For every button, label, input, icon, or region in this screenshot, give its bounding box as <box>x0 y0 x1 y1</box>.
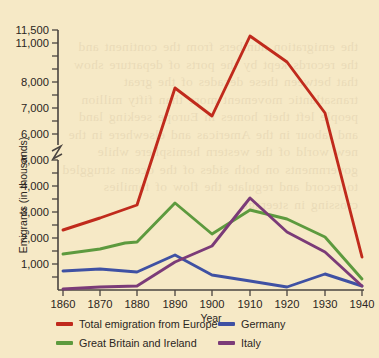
x-tick-label-1890: 1890 <box>163 298 188 310</box>
y-axis-break-icon <box>52 146 62 159</box>
y-axis-title: Emigrants (in thousands) <box>17 137 29 254</box>
legend-label-italy: Italy <box>241 337 261 349</box>
legend-label-germany: Germany <box>241 318 285 330</box>
legend-label-gb: Great Britain and Ireland <box>79 337 197 349</box>
legend-swatch-icon-germany <box>218 322 235 325</box>
legend-swatch-icon-italy <box>218 341 235 344</box>
y-tick-label-11000: 11,000 <box>16 37 49 49</box>
legend-item-great-britain-and-ireland: Great Britain and Ireland <box>56 337 197 349</box>
series-line-total-emigration-from-europe <box>63 36 362 257</box>
line-chart: 1,000 2,000 3,000 4,000 5,000 6,000 7,00… <box>0 0 379 358</box>
legend-swatch-icon-total <box>56 322 73 325</box>
legend-item-germany: Germany <box>218 318 285 330</box>
y-tick-label-7000: 7,000 <box>21 102 49 114</box>
x-tick-label-1940: 1940 <box>350 298 375 310</box>
x-tick-label-1900: 1900 <box>200 298 225 310</box>
x-tick-label-1910: 1910 <box>238 298 263 310</box>
x-tick-label-1870: 1870 <box>88 298 113 310</box>
y-tick-label-1000: 1,000 <box>21 258 49 270</box>
legend-item-total-emigration-from-europe: Total emigration from Europe <box>56 318 218 330</box>
chart-legend: Total emigration from Europe Germany Gre… <box>0 313 379 358</box>
series-line-germany <box>63 255 362 287</box>
x-tick-label-1860: 1860 <box>51 298 76 310</box>
y-tick-label-11500: 11,500 <box>16 24 49 36</box>
legend-label-total: Total emigration from Europe <box>79 318 218 330</box>
legend-swatch-icon-gb <box>56 341 73 344</box>
legend-item-italy: Italy <box>218 337 261 349</box>
chart-svg: 1,000 2,000 3,000 4,000 5,000 6,000 7,00… <box>0 0 379 358</box>
x-tick-label-1920: 1920 <box>275 298 300 310</box>
x-ticks <box>63 290 362 296</box>
x-tick-label-1930: 1930 <box>313 298 338 310</box>
chart-page: the emigration numbers from the continen… <box>0 0 379 358</box>
y-tick-label-8000: 8,000 <box>21 76 49 88</box>
x-tick-label-1880: 1880 <box>125 298 150 310</box>
